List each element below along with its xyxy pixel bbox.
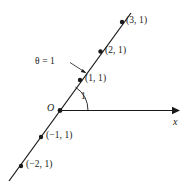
theta-line-segment bbox=[9, 13, 131, 181]
x-axis-arrowhead bbox=[172, 107, 180, 114]
point-label-2-1: (2, 1) bbox=[105, 46, 126, 56]
point-marker-origin bbox=[58, 108, 63, 113]
theta-value-label: θ = 1 bbox=[35, 57, 55, 67]
point-label-3-1: (3, 1) bbox=[126, 16, 147, 26]
origin-label: O bbox=[47, 103, 54, 113]
theta-leader bbox=[70, 63, 87, 74]
x-axis-label: x bbox=[173, 117, 178, 127]
point-label-neg2-1: (−2, 1) bbox=[26, 160, 53, 170]
angle-measure-label: 1 bbox=[81, 92, 86, 102]
point-marker-2-1 bbox=[98, 49, 102, 53]
point-marker-neg2-1 bbox=[19, 164, 23, 168]
point-marker-neg1-1 bbox=[39, 135, 43, 139]
point-label-neg1-1: (−1, 1) bbox=[46, 131, 73, 141]
point-label-1-1: (1, 1) bbox=[85, 74, 106, 84]
polar-line-figure: (3, 1) (2, 1) (1, 1) (−1, 1) (−2, 1) θ =… bbox=[0, 0, 191, 188]
x-axis bbox=[60, 107, 180, 114]
theta-line bbox=[9, 13, 131, 181]
point-marker-1-1 bbox=[78, 78, 82, 82]
point-marker-3-1 bbox=[120, 20, 124, 24]
